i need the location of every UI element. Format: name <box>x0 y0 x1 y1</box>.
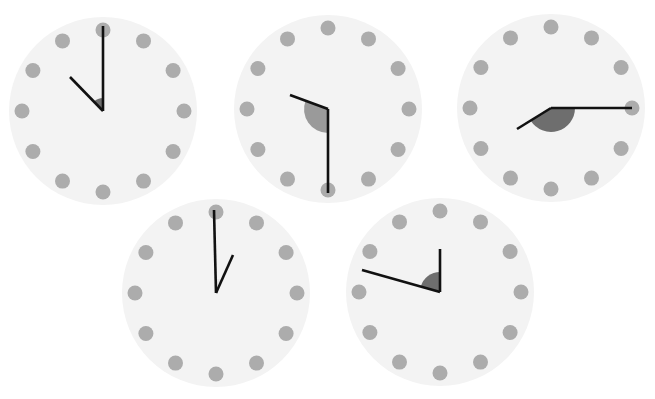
hour-marker-dot <box>280 172 295 187</box>
hour-marker-dot <box>96 185 111 200</box>
hour-marker-dot <box>279 326 294 341</box>
hour-marker-dot <box>250 61 265 76</box>
clocks-diagram <box>0 0 655 399</box>
hour-marker-dot <box>55 33 70 48</box>
hour-marker-dot <box>136 174 151 189</box>
hour-marker-dot <box>166 63 181 78</box>
hour-marker-dot <box>473 355 488 370</box>
hour-marker-dot <box>402 102 417 117</box>
hour-marker-dot <box>321 21 336 36</box>
hour-marker-dot <box>249 356 264 371</box>
hour-marker-dot <box>25 144 40 159</box>
clock <box>457 14 645 202</box>
clock <box>346 198 534 386</box>
hour-marker-dot <box>168 356 183 371</box>
hour-marker-dot <box>138 326 153 341</box>
hour-marker-dot <box>25 63 40 78</box>
hour-marker-dot <box>168 215 183 230</box>
hour-marker-dot <box>15 104 30 119</box>
hour-marker-dot <box>433 204 448 219</box>
hour-marker-dot <box>463 101 478 116</box>
hour-marker-dot <box>392 355 407 370</box>
clock <box>234 15 422 203</box>
hour-marker-dot <box>614 141 629 156</box>
clock <box>9 17 197 205</box>
hour-marker-dot <box>361 172 376 187</box>
hour-marker-dot <box>280 31 295 46</box>
hour-marker-dot <box>584 30 599 45</box>
hour-marker-dot <box>128 286 143 301</box>
hour-marker-dot <box>240 102 255 117</box>
hour-marker-dot <box>584 171 599 186</box>
hour-marker-dot <box>391 142 406 157</box>
hour-marker-dot <box>250 142 265 157</box>
hour-marker-dot <box>279 245 294 260</box>
hour-marker-dot <box>177 104 192 119</box>
hour-marker-dot <box>352 285 367 300</box>
hour-marker-dot <box>136 33 151 48</box>
hour-marker-dot <box>614 60 629 75</box>
hour-marker-dot <box>209 367 224 382</box>
hour-marker-dot <box>361 31 376 46</box>
hour-marker-dot <box>473 60 488 75</box>
hour-marker-dot <box>391 61 406 76</box>
hour-marker-dot <box>55 174 70 189</box>
hour-marker-dot <box>503 244 518 259</box>
hour-marker-dot <box>433 366 448 381</box>
hour-marker-dot <box>209 205 224 220</box>
hour-marker-dot <box>362 244 377 259</box>
hour-marker-dot <box>249 215 264 230</box>
hour-marker-dot <box>166 144 181 159</box>
hour-marker-dot <box>290 286 305 301</box>
hour-marker-dot <box>392 214 407 229</box>
hour-marker-dot <box>503 171 518 186</box>
hour-marker-dot <box>473 214 488 229</box>
clock <box>122 199 310 387</box>
hour-marker-dot <box>473 141 488 156</box>
hour-marker-dot <box>544 182 559 197</box>
hour-marker-dot <box>514 285 529 300</box>
hour-marker-dot <box>362 325 377 340</box>
hour-marker-dot <box>503 30 518 45</box>
hour-marker-dot <box>138 245 153 260</box>
hour-marker-dot <box>503 325 518 340</box>
hour-marker-dot <box>544 20 559 35</box>
